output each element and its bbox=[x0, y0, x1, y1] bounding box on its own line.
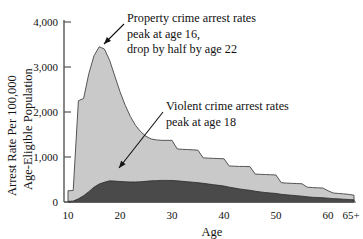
y-tick-label-1000: 1,000 bbox=[33, 151, 58, 163]
x-tick-label-60: 60 bbox=[323, 209, 335, 221]
y-axis-title-line1: Arrest Rate Per 100,000 bbox=[5, 75, 19, 196]
x-tick-label-50: 50 bbox=[271, 209, 283, 221]
x-tick-label-40: 40 bbox=[219, 209, 231, 221]
violent-annotation-line-2: peak at age 18 bbox=[166, 115, 236, 129]
chart-container: Arrest Rate Per 100,000 Age-Eligible Pop… bbox=[0, 0, 363, 239]
y-tick-label-3000: 3,000 bbox=[33, 61, 58, 73]
property-annotation-line-2: peak at age 16, bbox=[127, 27, 200, 41]
x-axis-title: Age bbox=[202, 225, 223, 239]
y-tick-label-0: 0 bbox=[53, 196, 59, 208]
x-tick-label-65plus: 65+ bbox=[342, 209, 359, 221]
arrest-rate-by-age-chart: Arrest Rate Per 100,000 Age-Eligible Pop… bbox=[0, 0, 363, 239]
x-tick-label-30: 30 bbox=[167, 209, 179, 221]
x-tick-label-10: 10 bbox=[63, 209, 75, 221]
y-tick-label-2000: 2,000 bbox=[33, 106, 58, 118]
x-tick-label-20: 20 bbox=[115, 209, 127, 221]
property-annotation-line-1: Property crime arrest rates bbox=[127, 11, 256, 25]
violent-annotation-line-1: Violent crime arrest rates bbox=[166, 99, 289, 113]
property-annotation-line-3: drop by half by age 22 bbox=[127, 42, 237, 56]
y-tick-label-4000: 4,000 bbox=[33, 16, 58, 28]
y-axis-title-line2: Age-Eligible Population bbox=[21, 67, 35, 190]
